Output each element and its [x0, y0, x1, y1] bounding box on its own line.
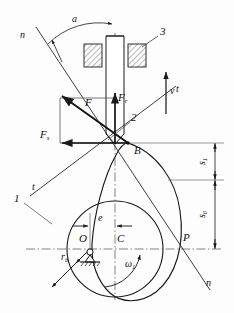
stroke-s0-symbol: s — [196, 214, 207, 218]
normal-line-label-bottom: n — [206, 278, 211, 288]
angular-velocity-symbol: ω — [125, 258, 132, 269]
force-side-symbol: F — [40, 128, 47, 140]
stroke-s1-symbol: s — [196, 161, 207, 165]
base-radius-arrow — [52, 249, 90, 287]
velocity-label: v — [170, 86, 174, 96]
frame-guide-left — [84, 44, 102, 67]
stroke-s0-subscript: 0 — [201, 211, 208, 214]
base-radius-label: rb — [61, 252, 68, 263]
cam-force-diagram: a n n t t 3 2 1 B v F Fr Fs O C P e rb ω… — [0, 0, 234, 313]
stroke-s1-subscript: 1 — [201, 158, 208, 161]
force-radial-symbol: F — [118, 91, 125, 103]
force-radial-subscript: r — [125, 97, 128, 105]
angular-velocity-subscript: 1 — [132, 263, 135, 270]
contact-point-marker — [126, 141, 129, 144]
stroke-s1-label: s1 — [197, 158, 208, 165]
cam-profile — [92, 143, 181, 301]
tangent-line-tt — [30, 86, 176, 196]
base-radius-subscript: b — [65, 256, 68, 263]
tangent-line-label-right: t — [176, 84, 179, 94]
diagram-canvas — [0, 0, 234, 313]
pivot-support — [80, 249, 100, 266]
angular-velocity-label: ω1 — [125, 259, 135, 270]
frame-guide-right — [128, 44, 146, 67]
force-side-subscript: s — [47, 134, 50, 142]
follower-label: 2 — [131, 112, 137, 123]
cam-center-label: C — [117, 233, 124, 244]
frame-leader-line — [142, 36, 158, 47]
cam-label: 1 — [14, 193, 20, 204]
pressure-angle-label: a — [72, 14, 77, 24]
cam-leader-line — [24, 203, 52, 224]
stroke-s0-label: s0 — [197, 211, 208, 218]
force-side-label: Fs — [40, 129, 49, 142]
tangent-line-label-left: t — [32, 182, 35, 192]
contact-point-label: B — [134, 145, 141, 156]
stroke-extension-lines — [128, 143, 224, 180]
offset-label: e — [98, 213, 102, 223]
frame-label: 3 — [160, 26, 166, 37]
force-total-label: F — [85, 97, 92, 108]
normal-line-label-top: n — [20, 30, 25, 40]
pitch-point-label: P — [183, 232, 190, 243]
pivot-label: O — [79, 233, 87, 244]
force-radial-label: Fr — [118, 92, 127, 105]
